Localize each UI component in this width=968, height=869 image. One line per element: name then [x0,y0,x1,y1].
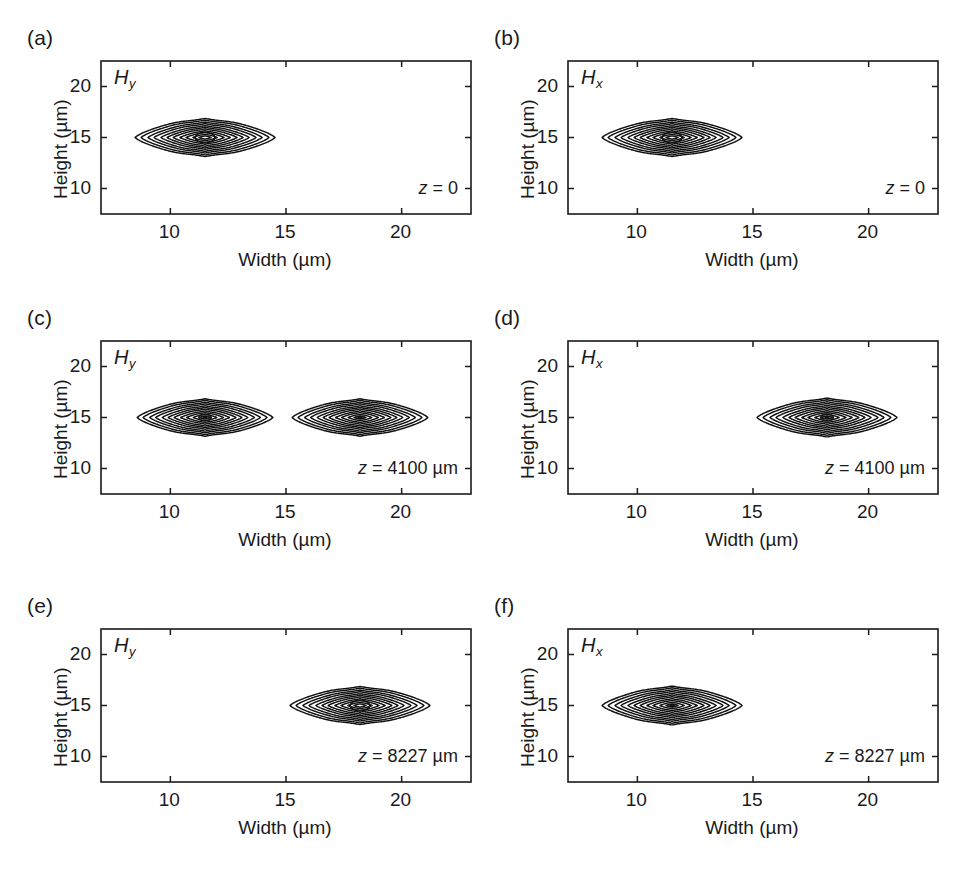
contour-core [670,704,675,706]
y-tick-label: 20 [527,643,558,665]
panel-f: (f)101520101520Height (µm)Width (µm)Hxz … [0,0,968,869]
z-value: = 8227 µm [834,746,925,766]
x-tick-label: 15 [741,789,762,811]
field-subscript: x [596,644,603,659]
x-tick-label: 10 [626,789,647,811]
contour-figure: (a)101520101520Height (µm)Width (µm)Hyz … [0,0,968,869]
panel-letter: (f) [494,594,514,618]
y-axis-label: Height (µm) [517,667,539,767]
z-distance-label: z = 8227 µm [577,746,925,767]
field-symbol: H [581,634,595,656]
z-symbol: z [825,746,834,766]
field-component-label: Hx [581,634,603,659]
x-axis-label: Width (µm) [567,817,937,839]
x-tick-label: 20 [857,789,878,811]
